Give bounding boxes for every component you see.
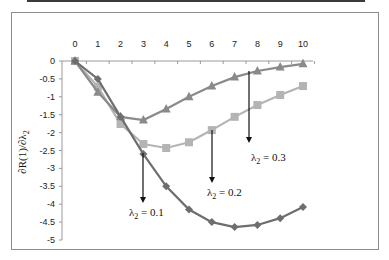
x-tick-label: 4 bbox=[164, 39, 169, 49]
diamond-marker bbox=[231, 223, 239, 231]
x-tick-label: 9 bbox=[278, 39, 283, 49]
annotation-lambda-0-2: λ2 = 0.2 bbox=[207, 186, 242, 201]
annotation-arrows bbox=[140, 71, 252, 203]
y-axis-label: ∂R(1)/∂λ2 bbox=[16, 130, 31, 173]
square-marker bbox=[299, 82, 307, 90]
series-triangle bbox=[71, 56, 308, 124]
square-marker bbox=[253, 101, 261, 109]
x-tick-label: 0 bbox=[72, 39, 77, 49]
line-chart: 0-0.5-1-1.5-2-2.5-3-3.5-4-4.5-5012345678… bbox=[0, 0, 389, 260]
x-tick-label: 2 bbox=[118, 39, 123, 49]
x-tick-label: 5 bbox=[186, 39, 191, 49]
diamond-marker bbox=[299, 203, 307, 211]
arrow-1 bbox=[140, 153, 146, 203]
x-tick-label: 8 bbox=[255, 39, 260, 49]
series-square bbox=[71, 57, 307, 152]
x-tick-label: 10 bbox=[298, 39, 308, 49]
square-marker bbox=[231, 113, 239, 121]
y-tick-label: -0.5 bbox=[39, 74, 55, 84]
y-tick-label: -2.5 bbox=[39, 146, 55, 156]
annotation-lambda-0-1: λ2 = 0.1 bbox=[129, 206, 164, 221]
y-tick-label: -4 bbox=[47, 199, 55, 209]
square-marker bbox=[139, 140, 147, 148]
y-tick-label: 0 bbox=[50, 56, 55, 66]
series-lines bbox=[71, 56, 308, 231]
y-tick-label: -1.5 bbox=[39, 110, 55, 120]
annotation-lambda-0-3: λ2 = 0.3 bbox=[251, 151, 286, 166]
diamond-marker bbox=[276, 214, 284, 222]
x-tick-label: 7 bbox=[232, 39, 237, 49]
diamond-marker bbox=[253, 221, 261, 229]
square-marker bbox=[276, 91, 284, 99]
y-tick-label: -3 bbox=[47, 163, 55, 173]
triangle-marker bbox=[299, 59, 308, 68]
y-tick-label: -1 bbox=[47, 92, 55, 102]
arrow-3 bbox=[246, 71, 252, 143]
arrow-2 bbox=[209, 130, 215, 183]
y-tick-label: -2 bbox=[47, 128, 55, 138]
x-tick-label: 6 bbox=[209, 39, 214, 49]
diamond-marker bbox=[208, 218, 216, 226]
square-marker bbox=[162, 144, 170, 152]
y-tick-label: -3.5 bbox=[39, 181, 55, 191]
series-line bbox=[75, 61, 303, 120]
square-marker bbox=[185, 138, 193, 146]
x-tick-label: 3 bbox=[141, 39, 146, 49]
y-tick-label: -5 bbox=[47, 235, 55, 245]
x-tick-label: 1 bbox=[95, 39, 100, 49]
y-tick-label: -4.5 bbox=[39, 217, 55, 227]
